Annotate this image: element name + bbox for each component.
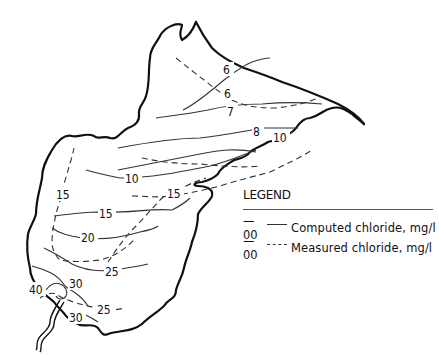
- legend-code-measured: —00: [243, 234, 267, 262]
- label-computed-15: 15: [99, 207, 113, 221]
- legend-divider: [243, 209, 433, 210]
- label-measured-25: 25: [97, 303, 111, 317]
- river-inlet-1: [36, 300, 60, 350]
- computed-contour-25: [44, 248, 148, 271]
- computed-contour-20: [52, 226, 158, 239]
- legend-label-measured: Measured chloride, mg/l: [291, 241, 432, 255]
- legend: LEGEND —00 Computed chloride, mg/l —00 M…: [243, 188, 438, 258]
- solid-line-icon: [267, 224, 287, 225]
- label-computed-8: 8: [253, 125, 260, 139]
- label-computed-6: 6: [223, 63, 230, 77]
- label-measured-15-right: 15: [167, 187, 181, 201]
- lake-chloride-map: 6 6 7 8 10 10 15 15 15 20 25 30 40 25 30: [0, 0, 439, 355]
- dashed-line-icon: [267, 244, 287, 245]
- legend-label-computed: Computed chloride, mg/l: [291, 221, 436, 235]
- measured-contour-6: [176, 58, 318, 108]
- label-computed-25: 25: [105, 265, 119, 279]
- label-measured-6: 6: [224, 87, 231, 101]
- label-computed-30-top: 30: [69, 277, 83, 291]
- label-measured-10: 10: [273, 131, 287, 145]
- computed-contour-10: [86, 150, 256, 178]
- legend-item-measured: —00 Measured chloride, mg/l: [243, 238, 438, 258]
- label-computed-40: 40: [29, 283, 43, 297]
- measured-contours: [40, 58, 318, 310]
- label-computed-30-bottom: 30: [69, 311, 83, 325]
- label-computed-7: 7: [227, 105, 234, 119]
- label-measured-15-left: 15: [56, 188, 70, 202]
- label-computed-20: 20: [81, 231, 95, 245]
- computed-contour-7: [156, 103, 322, 119]
- computed-contour-8: [118, 128, 298, 148]
- computed-contour-30-lower: [84, 314, 98, 322]
- legend-title: LEGEND: [243, 188, 438, 202]
- label-computed-10: 10: [125, 172, 139, 186]
- legend-item-computed: —00 Computed chloride, mg/l: [243, 218, 438, 238]
